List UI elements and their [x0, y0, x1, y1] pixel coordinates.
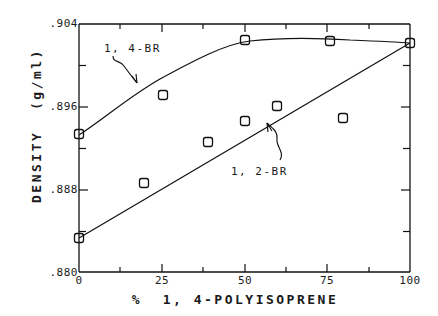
series-14br-markers: [75, 36, 415, 139]
y-axis-ticks: [79, 66, 410, 232]
x-axis-ticks: [120, 24, 369, 272]
series-14br-curve: [79, 38, 410, 135]
annotation-arrow-12br: [267, 123, 282, 160]
series-12br-markers: [75, 102, 348, 243]
plot-area-svg: [0, 0, 438, 316]
axes: [79, 24, 410, 272]
annotation-arrow-14br: [113, 56, 137, 83]
chart-figure: DENSITY (g/ml) % 1, 4-POLYISOPRENE .904 …: [0, 0, 438, 316]
